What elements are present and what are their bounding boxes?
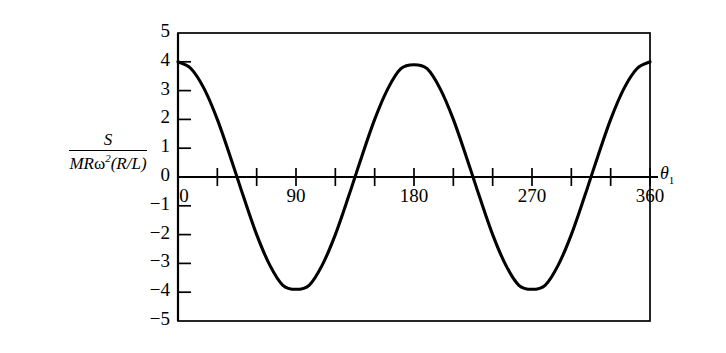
y-axis-tick-label: 4 (130, 49, 170, 71)
plot-area (0, 0, 726, 353)
chart-figure: S MRω2(R/L) θ1 543210−1−2−3−4−5 09018027… (0, 0, 726, 353)
y-axis-tick-label: −2 (130, 222, 170, 244)
denominator-prefix: MR (69, 154, 94, 173)
theta-subscript: 1 (669, 174, 675, 186)
y-axis-tick-label: 5 (130, 20, 170, 42)
y-axis-tick-label: −5 (130, 308, 170, 330)
x-axis-tick-label: 180 (386, 185, 442, 207)
y-axis-tick-label: 1 (130, 135, 170, 157)
y-axis-tick-label: 2 (130, 106, 170, 128)
x-axis-tick-label: 90 (268, 185, 324, 207)
y-axis-tick-label: 0 (130, 164, 170, 186)
x-axis-label: θ1 (660, 163, 674, 186)
y-axis-tick-label: −4 (130, 279, 170, 301)
y-axis-tick-label: −3 (130, 250, 170, 272)
theta-symbol: θ (660, 163, 669, 183)
y-axis-tick-label: 3 (130, 78, 170, 100)
x-axis-tick-label: 270 (504, 185, 560, 207)
x-axis-tick-label: 360 (622, 185, 678, 207)
x-axis-tick-label: 0 (156, 185, 212, 207)
omega-symbol: ω (94, 154, 105, 173)
